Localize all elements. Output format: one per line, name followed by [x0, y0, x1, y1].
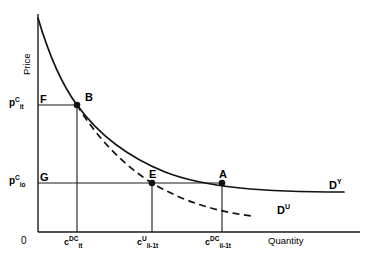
point-label-b: B — [85, 92, 93, 103]
curve-label-du: DU — [277, 205, 290, 216]
curve-label-dy-sup: Y — [337, 178, 342, 185]
curve-label-dy: DY — [329, 180, 342, 191]
price-tick-low-sub: io — [20, 181, 26, 188]
demand-curve-du — [77, 105, 252, 216]
origin-label: 0 — [21, 236, 27, 246]
chart-canvas — [0, 0, 374, 274]
quantity-tick-b-sup: DC — [69, 235, 78, 242]
point-label-a: A — [219, 169, 227, 180]
demand-curve-dy — [38, 18, 344, 192]
price-tick-high: pCit — [9, 98, 24, 108]
curve-label-du-base: D — [277, 204, 285, 216]
curve-label-du-sup: U — [285, 203, 290, 210]
price-tick-low-sup: C — [15, 174, 20, 181]
quantity-tick-e-sub: ii-1t — [147, 242, 159, 249]
quantity-tick-e: cUii-1t — [137, 238, 158, 247]
quantity-tick-a-sup: DC — [210, 235, 219, 242]
demand-curve-figure: Price Quantity 0 pCit pCio cDCit cUii-1t… — [0, 0, 374, 274]
price-tick-low: pCio — [9, 176, 26, 186]
corner-label-g: G — [40, 172, 49, 183]
quantity-tick-b: cDCit — [64, 238, 82, 247]
price-tick-high-sub: it — [20, 103, 24, 110]
curve-label-dy-base: D — [329, 179, 337, 191]
price-tick-high-sup: C — [15, 96, 20, 103]
corner-label-f: F — [40, 94, 47, 105]
quantity-tick-a: cDCii-1t — [205, 238, 231, 247]
point-marker-e — [149, 180, 156, 187]
y-axis-title: Price — [22, 15, 32, 75]
point-label-e: E — [149, 169, 156, 180]
quantity-tick-a-sub: ii-1t — [219, 242, 231, 249]
point-marker-b — [74, 102, 81, 109]
point-marker-a — [219, 180, 226, 187]
quantity-tick-b-sub: it — [78, 242, 82, 249]
x-axis-title: Quantity — [268, 236, 303, 246]
